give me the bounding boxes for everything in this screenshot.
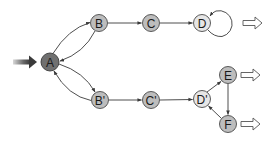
edge-a-to-b: [53, 23, 90, 54]
node-b-prime: B': [92, 92, 109, 109]
node-e: E: [220, 67, 237, 84]
node-c-prime: C': [143, 92, 160, 109]
output-arrow-d: [243, 17, 262, 29]
output-arrow-f: [241, 118, 260, 130]
node-d-prime: D': [194, 91, 211, 108]
svg-text:C: C: [147, 17, 156, 31]
entry-arrow: [13, 56, 37, 69]
node-a: A: [41, 53, 59, 71]
nodes: A B C D B' C' D' E: [41, 15, 237, 133]
svg-text:E: E: [224, 69, 232, 83]
edge-b-prime-to-a: [54, 71, 91, 101]
svg-text:D': D': [197, 93, 208, 107]
output-arrows: [241, 17, 262, 130]
svg-text:D: D: [198, 17, 207, 31]
output-arrow-e: [241, 69, 260, 81]
node-f: F: [220, 116, 237, 133]
state-diagram: A B C D B' C' D' E: [0, 0, 277, 143]
svg-text:B: B: [95, 17, 103, 31]
edge-b-to-a: [60, 31, 95, 61]
svg-text:F: F: [224, 118, 231, 132]
node-d: D: [194, 15, 211, 32]
node-c: C: [143, 15, 160, 32]
svg-text:B': B': [95, 94, 105, 108]
node-b: B: [91, 15, 108, 32]
svg-text:C': C': [146, 94, 157, 108]
edge-f-to-d-prime: [209, 106, 222, 118]
edge-c-prime-to-d-prime: [160, 100, 193, 101]
edge-d-self-loop: [208, 11, 232, 37]
edge-a-to-b-prime: [59, 64, 95, 92]
edge-d-prime-to-e: [207, 82, 221, 93]
svg-text:A: A: [46, 56, 54, 70]
